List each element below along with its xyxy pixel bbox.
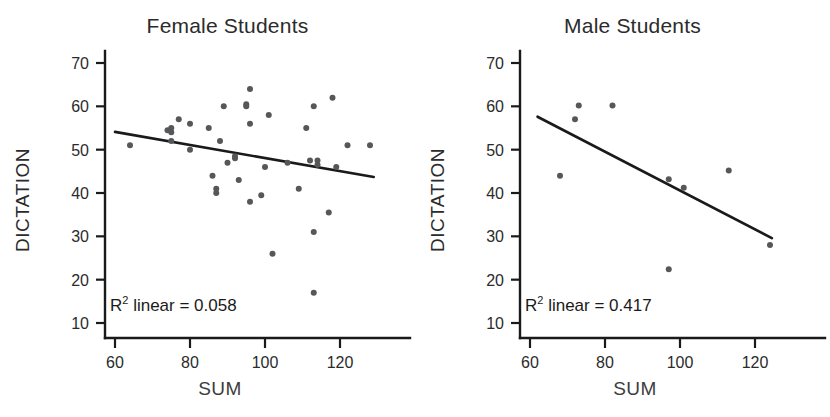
y-tick-label: 20 — [486, 272, 504, 289]
data-point — [285, 160, 291, 166]
data-point — [247, 199, 253, 205]
data-point — [176, 116, 182, 122]
data-point — [270, 251, 276, 257]
data-point — [187, 147, 193, 153]
data-point — [326, 210, 332, 216]
r-squared-value-text: linear = 0.417 — [543, 296, 651, 315]
x-axis-title: SUM — [90, 378, 350, 400]
x-tick-label: 80 — [181, 354, 199, 371]
data-point — [168, 125, 174, 131]
y-axis-title: DICTATION — [427, 120, 453, 280]
data-point — [236, 177, 242, 183]
data-point — [681, 185, 687, 191]
data-point — [266, 112, 272, 118]
data-point — [127, 142, 133, 148]
data-point — [303, 125, 309, 131]
r-squared-annotation: R2 linear = 0.417 — [525, 294, 652, 316]
regression-line — [115, 132, 374, 177]
data-point — [247, 86, 253, 92]
y-tick-label: 20 — [71, 272, 89, 289]
y-tick-label: 30 — [71, 228, 89, 245]
data-point — [367, 142, 373, 148]
data-point — [206, 125, 212, 131]
data-point — [307, 158, 313, 164]
data-point — [666, 266, 672, 272]
y-tick-label: 50 — [71, 142, 89, 159]
data-point — [225, 160, 231, 166]
data-point — [726, 167, 732, 173]
data-point — [243, 103, 249, 109]
r-squared-annotation: R2 linear = 0.058 — [110, 294, 237, 316]
y-tick-label: 40 — [486, 185, 504, 202]
data-point — [576, 102, 582, 108]
x-tick-label: 100 — [667, 354, 694, 371]
data-point — [168, 138, 174, 144]
r-squared-text: R — [525, 296, 537, 315]
data-point — [311, 290, 317, 296]
scatter-plot-figure: Female Students 102030405060706080100120… — [0, 0, 830, 417]
y-tick-label: 60 — [71, 98, 89, 115]
plot-area: 102030405060706080100120 — [0, 0, 415, 417]
x-tick-label: 120 — [742, 354, 769, 371]
data-point — [767, 242, 773, 248]
x-tick-label: 100 — [252, 354, 279, 371]
y-tick-label: 50 — [486, 142, 504, 159]
y-tick-label: 10 — [71, 315, 89, 332]
data-point — [333, 164, 339, 170]
data-point — [311, 103, 317, 109]
x-tick-label: 60 — [521, 354, 539, 371]
data-point — [213, 190, 219, 196]
data-point — [345, 142, 351, 148]
y-axis-title: DICTATION — [12, 120, 38, 280]
y-tick-label: 70 — [71, 55, 89, 72]
data-point — [217, 138, 223, 144]
x-axis-title: SUM — [505, 378, 765, 400]
x-tick-label: 80 — [596, 354, 614, 371]
y-tick-label: 60 — [486, 98, 504, 115]
data-point — [315, 162, 321, 168]
panel-male-students: Male Students 102030405060706080100120 D… — [415, 0, 830, 417]
r-squared-value-text: linear = 0.058 — [128, 296, 236, 315]
data-point — [557, 173, 563, 179]
plot-area: 102030405060706080100120 — [415, 0, 830, 417]
r-squared-text: R — [110, 296, 122, 315]
y-tick-label: 70 — [486, 55, 504, 72]
data-point — [210, 173, 216, 179]
y-tick-label: 10 — [486, 315, 504, 332]
data-point — [232, 155, 238, 161]
data-point — [258, 192, 264, 198]
x-tick-label: 120 — [327, 354, 354, 371]
y-tick-label: 40 — [71, 185, 89, 202]
data-point — [247, 121, 253, 127]
axes-group: 102030405060706080100120 — [486, 51, 825, 371]
data-point — [296, 186, 302, 192]
regression-line — [538, 117, 772, 238]
data-point — [572, 116, 578, 122]
panel-female-students: Female Students 102030405060706080100120… — [0, 0, 415, 417]
data-point — [262, 164, 268, 170]
y-tick-label: 30 — [486, 228, 504, 245]
data-point — [221, 103, 227, 109]
data-point — [610, 102, 616, 108]
data-point — [311, 229, 317, 235]
data-point — [330, 95, 336, 101]
data-point — [187, 121, 193, 127]
data-point — [666, 176, 672, 182]
axes-group: 102030405060706080100120 — [71, 51, 410, 371]
x-tick-label: 60 — [106, 354, 124, 371]
